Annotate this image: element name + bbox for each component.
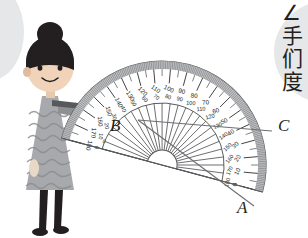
illustration-canvas: ∠ 手 们 度 (0, 0, 308, 238)
label-point-c: C (278, 116, 289, 136)
angle-rays (0, 0, 308, 238)
label-point-a: A (237, 198, 247, 218)
ray-BA (138, 120, 254, 206)
label-vertex-b: B (110, 116, 120, 136)
ray-BC (138, 120, 272, 131)
